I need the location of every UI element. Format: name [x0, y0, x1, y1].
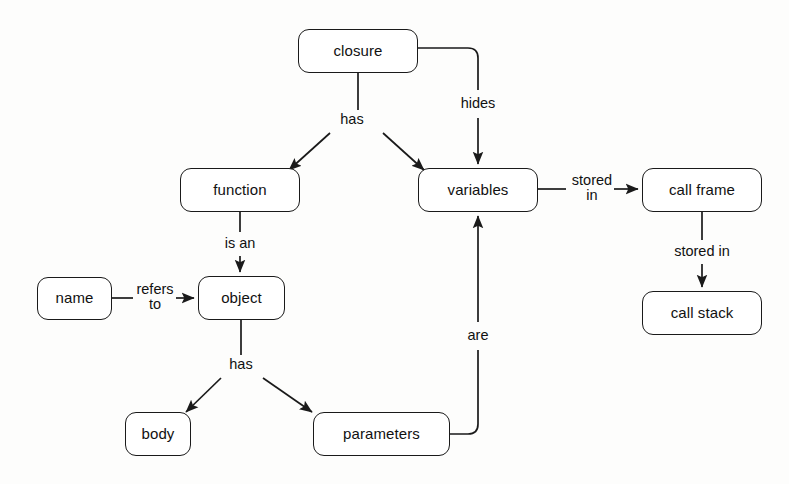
node-call-stack-label: call stack — [671, 305, 734, 322]
edge-label-name-refers-to: refers to — [134, 282, 175, 312]
edge-label-parameters-are: are — [466, 328, 491, 343]
edge-closure-to-function — [289, 133, 330, 170]
edge-object-to-parameters — [263, 378, 312, 412]
node-object-label: object — [221, 290, 262, 307]
node-name[interactable]: name — [37, 277, 112, 320]
node-name-label: name — [56, 290, 94, 307]
edge-label-function-is-an: is an — [223, 236, 258, 251]
node-call-stack[interactable]: call stack — [642, 291, 762, 335]
node-object[interactable]: object — [198, 276, 285, 320]
node-function-label: function — [213, 182, 266, 199]
node-closure-label: closure — [333, 43, 382, 60]
edge-object-to-body — [186, 378, 221, 412]
edge-label-object-has: has — [227, 357, 254, 372]
concept-map-canvas: closure function variables call frame ca… — [0, 0, 789, 484]
node-call-frame[interactable]: call frame — [642, 168, 762, 212]
node-parameters[interactable]: parameters — [313, 412, 450, 456]
node-closure[interactable]: closure — [298, 29, 418, 73]
node-variables-label: variables — [448, 182, 509, 199]
edge-parameters-are — [450, 350, 478, 434]
edge-label-closure-hides: hides — [459, 96, 498, 111]
edge-closure-to-variables — [383, 133, 424, 170]
node-function[interactable]: function — [180, 168, 300, 212]
edge-closure-hides — [418, 48, 478, 90]
edge-label-variables-stored-in: stored in — [570, 173, 614, 203]
node-body-label: body — [142, 426, 175, 443]
edge-label-callframe-stored-in: stored in — [672, 244, 732, 259]
edge-label-closure-has: has — [338, 112, 365, 127]
node-body[interactable]: body — [125, 412, 191, 456]
node-variables[interactable]: variables — [418, 168, 538, 212]
node-call-frame-label: call frame — [669, 182, 735, 199]
node-parameters-label: parameters — [343, 426, 420, 443]
